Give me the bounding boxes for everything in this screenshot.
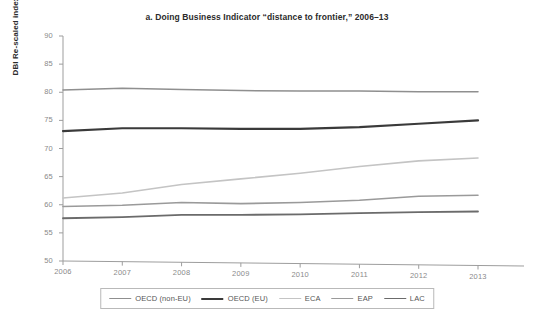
- legend-item-eca[interactable]: ECA: [279, 294, 321, 303]
- legend-label: OECD (EU): [228, 294, 268, 303]
- series-line-lac: [63, 212, 478, 219]
- y-tick-label: 85: [29, 59, 53, 68]
- x-tick-label: 2012: [399, 271, 439, 280]
- x-tick-label: 2011: [339, 270, 379, 279]
- plot-area: [0, 0, 534, 327]
- legend-label: EAP: [358, 294, 373, 303]
- series-line-oecd-eu: [63, 120, 478, 131]
- y-tick-label: 55: [29, 228, 53, 237]
- x-tick-label: 2006: [43, 267, 83, 276]
- legend-swatch-line-icon: [384, 298, 406, 299]
- series-lines: [63, 88, 478, 218]
- legend-label: ECA: [305, 294, 321, 303]
- y-tick-label: 80: [29, 87, 53, 96]
- y-tick-label: 70: [29, 144, 53, 153]
- x-tick-label: 2010: [280, 270, 320, 279]
- y-tick-label: 75: [29, 115, 53, 124]
- x-tick-label: 2007: [102, 268, 142, 277]
- chart-figure: a. Doing Business Indicator “distance to…: [0, 0, 534, 327]
- axes: [59, 36, 524, 270]
- legend-swatch-line-icon: [332, 298, 354, 299]
- y-tick-label: 90: [29, 31, 53, 40]
- series-line-eca: [63, 158, 478, 198]
- legend-label: LAC: [410, 294, 425, 303]
- legend-item-oecd-non-eu[interactable]: OECD (non-EU): [109, 294, 190, 303]
- legend-item-lac[interactable]: LAC: [384, 294, 425, 303]
- legend-item-oecd-eu[interactable]: OECD (EU): [202, 294, 268, 303]
- legend-swatch-line-icon: [202, 298, 224, 300]
- legend-label: OECD (non-EU): [135, 294, 190, 303]
- legend-item-eap[interactable]: EAP: [332, 294, 373, 303]
- series-line-eap: [63, 195, 478, 206]
- y-tick-label: 50: [29, 256, 53, 265]
- legend-swatch-line-icon: [109, 298, 131, 299]
- y-tick-label: 60: [29, 200, 53, 209]
- x-tick-label: 2008: [162, 268, 202, 277]
- x-tick-label: 2009: [221, 269, 261, 278]
- x-axis-line: [63, 261, 524, 266]
- series-line-oecd-non-eu: [63, 88, 478, 91]
- legend-swatch-line-icon: [279, 298, 301, 299]
- chart-legend: OECD (non-EU)OECD (EU)ECAEAPLAC: [100, 288, 434, 309]
- x-tick-label: 2013: [458, 272, 498, 281]
- y-tick-label: 65: [29, 172, 53, 181]
